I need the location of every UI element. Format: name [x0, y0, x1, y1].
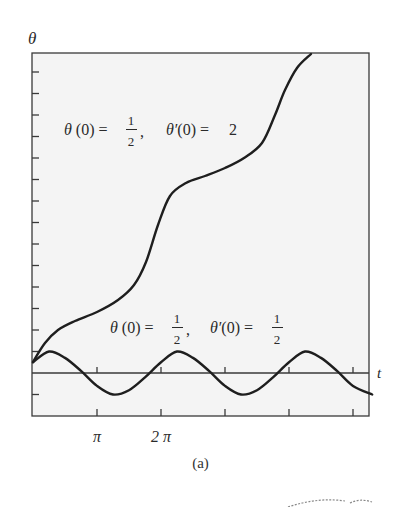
svg-text:,: , — [186, 321, 190, 338]
figure-chart: θ t π 2 π θ (0) = 1 2 , θ′(0) = 2 θ (0) … — [0, 0, 401, 507]
annotation-lower-dtheta0-numerator: 1 — [274, 311, 281, 326]
svg-text:θ (0) =: θ (0) = — [64, 121, 108, 139]
annotation-upper-theta0-denominator: 2 — [128, 134, 135, 149]
svg-text:θ′(0) =: θ′(0) = — [166, 121, 209, 139]
plot-area — [32, 53, 369, 416]
annotation-upper-theta0-numerator: 1 — [128, 113, 135, 128]
x-tick-label-pi: π — [93, 428, 102, 445]
y-axis-label: θ — [28, 29, 36, 48]
annotation-lower-theta0-numerator: 1 — [174, 311, 181, 326]
x-axis-label: t — [377, 365, 382, 381]
figure-caption: (a) — [0, 455, 401, 472]
svg-text:θ (0) =: θ (0) = — [110, 319, 154, 337]
x-tick-label-2pi: 2 π — [151, 428, 172, 445]
annotation-lower-theta0-denominator: 2 — [174, 332, 181, 347]
annotation-lower-dtheta0-denominator: 2 — [274, 332, 281, 347]
scan-artifact — [288, 500, 345, 507]
svg-text:,: , — [140, 123, 144, 140]
annotation-upper-dtheta0: 2 — [229, 121, 237, 138]
svg-text:θ′(0) =: θ′(0) = — [210, 319, 253, 337]
scan-artifact-2 — [350, 500, 372, 503]
